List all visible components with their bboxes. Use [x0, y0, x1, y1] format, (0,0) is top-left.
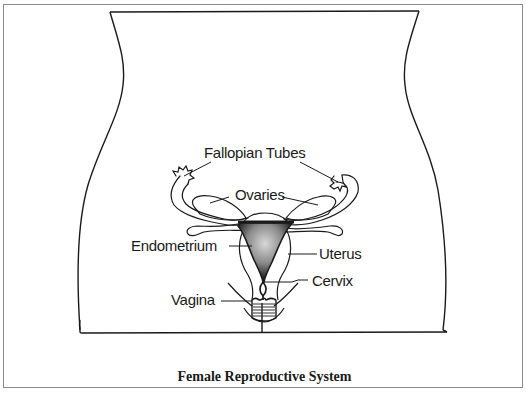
endometrium-illustration — [238, 222, 294, 300]
cervix-vagina-illustration — [228, 283, 298, 322]
label-vagina: Vagina — [171, 292, 215, 307]
diagram-caption: Female Reproductive System — [0, 370, 529, 384]
body-outline — [78, 11, 447, 333]
label-uterus: Uterus — [319, 246, 361, 261]
label-fallopian-tubes: Fallopian Tubes — [204, 145, 305, 160]
label-ovaries: Ovaries — [235, 187, 285, 202]
label-endometrium: Endometrium — [131, 238, 217, 253]
label-cervix: Cervix — [312, 273, 353, 288]
